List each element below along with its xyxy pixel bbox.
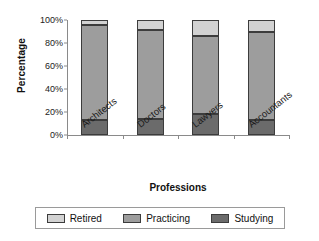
y-tick-label: 100%	[40, 15, 63, 25]
legend-item-studying[interactable]: Studying	[211, 213, 273, 224]
legend-label: Retired	[70, 213, 102, 224]
bar-segment-retired	[81, 20, 108, 25]
y-tick-mark	[64, 89, 67, 90]
bar-segment-retired	[248, 20, 275, 32]
y-axis-line	[67, 20, 68, 135]
bar-segment-retired	[137, 20, 164, 30]
y-tick-mark	[64, 112, 67, 113]
x-axis-title: Professions	[67, 182, 289, 193]
y-axis-title: Percentage	[16, 16, 27, 116]
legend-label: Practicing	[146, 213, 190, 224]
y-tick-label: 40%	[45, 84, 63, 94]
y-tick-label: 80%	[45, 38, 63, 48]
legend-label: Studying	[234, 213, 273, 224]
y-tick-label: 60%	[45, 61, 63, 71]
legend-item-retired[interactable]: Retired	[47, 213, 102, 224]
legend-swatch-icon	[123, 214, 141, 223]
legend-swatch-icon	[211, 214, 229, 223]
bar-segment-retired	[192, 20, 219, 36]
y-tick-mark	[64, 66, 67, 67]
legend-item-practicing[interactable]: Practicing	[123, 213, 190, 224]
x-tick-mark	[234, 135, 235, 139]
x-tick-mark	[289, 135, 290, 139]
chart-legend: RetiredPracticingStudying	[35, 207, 285, 229]
x-tick-mark	[123, 135, 124, 139]
x-tick-mark	[67, 135, 68, 139]
legend-swatch-icon	[47, 214, 65, 223]
stacked-bar-chart: Percentage 0%20%40%60%80%100% Profession…	[0, 0, 319, 241]
y-tick-mark	[64, 20, 67, 21]
y-tick-mark	[64, 43, 67, 44]
x-tick-mark	[178, 135, 179, 139]
y-tick-label: 20%	[45, 107, 63, 117]
y-tick-label: 0%	[50, 130, 63, 140]
